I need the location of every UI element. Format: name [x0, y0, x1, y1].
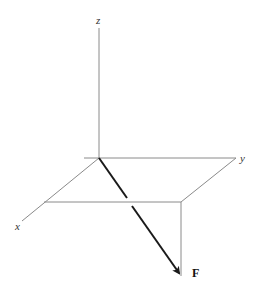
projection-line-x-parallel	[181, 158, 236, 202]
force-vector-label: F	[192, 266, 199, 280]
force-vector-lower	[132, 206, 179, 273]
x-axis-label: x	[14, 220, 20, 232]
force-vector-diagram: z y x F	[0, 0, 267, 300]
force-vector-upper	[99, 158, 127, 198]
x-axis	[22, 158, 99, 221]
y-axis-label: y	[239, 152, 245, 164]
z-axis-label: z	[95, 14, 101, 26]
